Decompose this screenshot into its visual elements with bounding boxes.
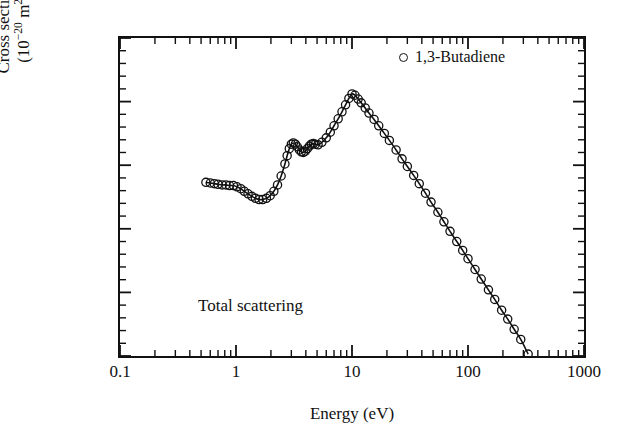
legend: 1,3-Butadiene (399, 48, 505, 66)
plot-area (118, 36, 586, 358)
figure-container: Cross section (10−20 m2) 102030405060 0.… (0, 0, 630, 448)
plot-annotation: Total scattering (198, 296, 303, 316)
x-tick-label: 0.1 (80, 362, 160, 382)
open-circle-icon (399, 53, 408, 62)
x-tick-label: 10 (312, 362, 392, 382)
x-axis-label: Energy (eV) (118, 404, 586, 424)
x-tick-label: 100 (428, 362, 508, 382)
x-tick-label: 1000 (544, 362, 624, 382)
legend-label-butadiene: 1,3-Butadiene (415, 48, 505, 66)
x-tick-label: 1 (196, 362, 276, 382)
data-plot (120, 38, 584, 356)
